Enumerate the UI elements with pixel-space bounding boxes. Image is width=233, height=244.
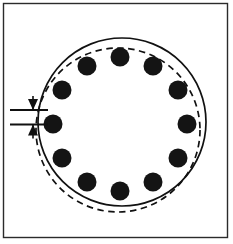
figure-container (0, 0, 233, 244)
bolt-hole-dot-5 (169, 149, 188, 168)
bolt-circle-diagram (0, 0, 233, 244)
bolt-hole-dot-6 (144, 173, 163, 192)
bolt-hole-dot-3 (169, 81, 188, 100)
bolt-hole-dot-4 (178, 115, 197, 134)
bolt-hole-dot-9 (53, 149, 72, 168)
bolt-hole-dot-8 (78, 173, 97, 192)
bolt-hole-dot-7 (111, 182, 130, 201)
bolt-hole-dot-12 (78, 57, 97, 76)
bolt-hole-dot-11 (53, 81, 72, 100)
bolt-hole-dot-2 (144, 57, 163, 76)
bolt-hole-dot-1 (111, 48, 130, 67)
